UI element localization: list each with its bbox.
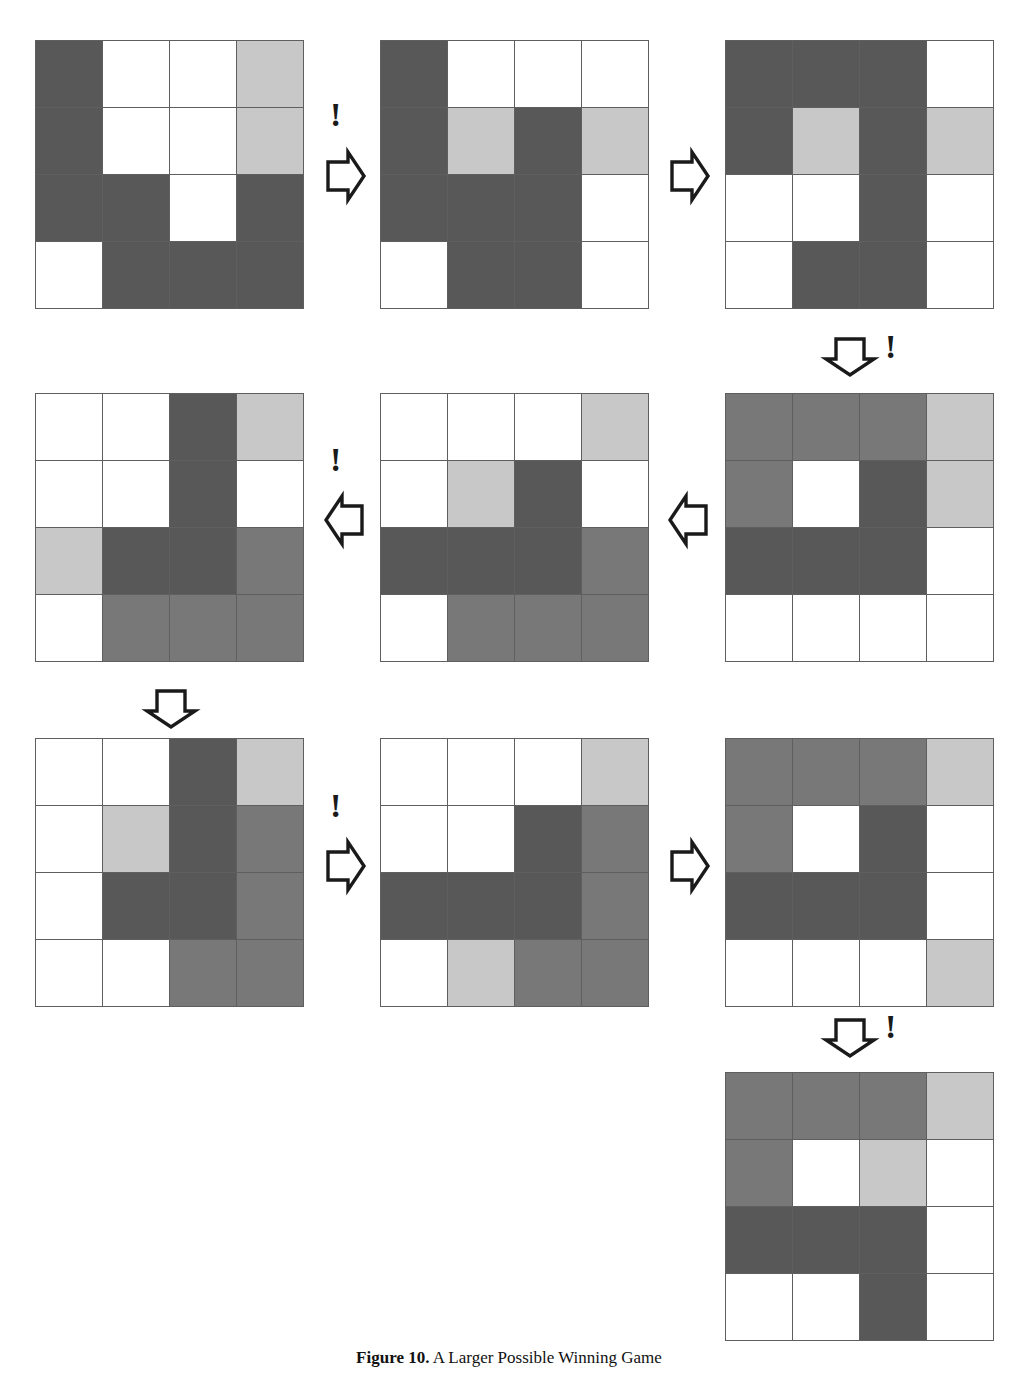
board-cell [859,107,927,175]
board-cell [725,527,793,595]
board-cell [169,107,237,175]
board-cell [380,738,448,806]
board-cell [102,241,170,309]
board-cell [169,594,237,662]
board-cell [514,460,582,528]
board-cell [581,872,649,940]
board-cell [926,939,994,1007]
board-cell [725,40,793,108]
board-cell [926,1206,994,1274]
board-cell [859,1072,927,1140]
board-cell [35,594,103,662]
board-cell [581,107,649,175]
board-cell [926,174,994,242]
board-cell [169,738,237,806]
board-cell [380,40,448,108]
board-cell [380,527,448,595]
board-cell [447,527,515,595]
board-cell [447,40,515,108]
board-cell [859,872,927,940]
board-cell [236,872,304,940]
board-cell [102,594,170,662]
board-cell [792,738,860,806]
board-cell [725,1206,793,1274]
board-cell [236,40,304,108]
board-cell [169,805,237,873]
board-cell [447,241,515,309]
board-cell [514,738,582,806]
board-cell [380,174,448,242]
transition-arrow-right-icon [666,838,712,894]
board-cell [792,460,860,528]
board-cell [581,805,649,873]
board-cell [102,393,170,461]
figure-caption: Figure 10. A Larger Possible Winning Gam… [0,1348,1018,1368]
board-cell [859,1206,927,1274]
board-cell [725,107,793,175]
board-cell [926,805,994,873]
board-cell [926,393,994,461]
board-cell [236,738,304,806]
board-cell [725,174,793,242]
board-cell [380,107,448,175]
board-cell [236,393,304,461]
game-board [380,738,648,1006]
board-cell [581,40,649,108]
exclamation-mark-icon: ! [885,1010,896,1044]
board-cell [380,805,448,873]
board-cell [102,107,170,175]
board-cell [514,393,582,461]
board-cell [236,594,304,662]
board-cell [792,527,860,595]
board-cell [581,241,649,309]
board-cell [447,872,515,940]
board-cell [859,1273,927,1341]
board-cell [380,393,448,461]
board-cell [792,872,860,940]
board-cell [35,738,103,806]
board-cell [236,174,304,242]
board-cell [169,241,237,309]
figure-panel: !!!!! [0,0,1018,1376]
board-cell [236,939,304,1007]
board-cell [102,460,170,528]
board-cell [859,393,927,461]
board-cell [725,805,793,873]
board-cell [926,40,994,108]
board-cell [169,393,237,461]
board-cell [447,939,515,1007]
board-cell [792,1206,860,1274]
board-cell [447,594,515,662]
board-cell [514,107,582,175]
board-cell [447,805,515,873]
board-cell [380,939,448,1007]
board-cell [169,872,237,940]
board-cell [859,241,927,309]
board-cell [514,939,582,1007]
board-cell [859,527,927,595]
board-cell [926,872,994,940]
board-cell [236,527,304,595]
board-cell [581,594,649,662]
board-cell [35,939,103,1007]
board-cell [380,872,448,940]
board-cell [447,393,515,461]
board-cell [514,174,582,242]
board-cell [380,594,448,662]
board-cell [581,738,649,806]
board-cell [581,460,649,528]
board-cell [926,1072,994,1140]
board-cell [102,174,170,242]
board-cell [102,939,170,1007]
board-cell [859,1139,927,1207]
board-cell [169,460,237,528]
transition-arrow-right-icon [666,148,712,204]
game-board [725,738,993,1006]
game-board [725,40,993,308]
board-cell [35,107,103,175]
board-cell [581,527,649,595]
board-cell [581,393,649,461]
board-cell [725,241,793,309]
board-cell [792,40,860,108]
game-board [35,738,303,1006]
